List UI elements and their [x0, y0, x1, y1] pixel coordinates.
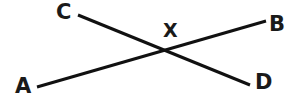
- point-label-a: A: [15, 76, 31, 97]
- lines-canvas: [0, 0, 288, 104]
- point-label-d: D: [255, 72, 272, 93]
- intersecting-lines-figure: A B C D X: [0, 0, 288, 104]
- intersection-label-x: X: [163, 21, 178, 40]
- point-label-c: C: [56, 2, 71, 23]
- point-label-b: B: [269, 14, 285, 35]
